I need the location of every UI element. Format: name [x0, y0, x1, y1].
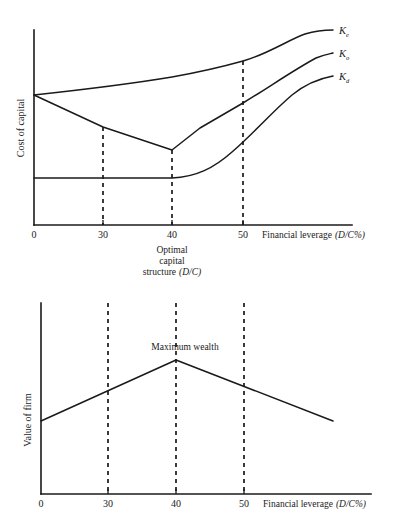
- top-x-axis-title-text: Financial leverage: [262, 230, 332, 240]
- optimal-caption-line3-text: structure: [143, 267, 176, 277]
- curve-label-ko: Ko: [338, 48, 350, 61]
- optimal-caption-line3-units: (D/C): [179, 267, 201, 278]
- optimal-caption-line2: capital: [159, 256, 185, 266]
- curve-label-ke-sub: e: [346, 31, 349, 38]
- cost-of-capital-chart: Ke Ko Kd 0 30 40 50 Financial leverage(D…: [15, 25, 365, 278]
- figure-root: Ke Ko Kd 0 30 40 50 Financial leverage(D…: [0, 0, 402, 530]
- value-of-firm-chart: Maximum wealth 0 30 40 50 Financial leve…: [22, 303, 371, 510]
- maximum-wealth-label: Maximum wealth: [151, 342, 219, 352]
- bottom-y-axis-title: Value of firm: [22, 393, 33, 447]
- top-tick-label-40: 40: [167, 229, 177, 240]
- curve-label-kd: Kd: [338, 71, 350, 84]
- bottom-tick-label-40: 40: [171, 498, 181, 509]
- bottom-tick-label-30: 30: [103, 498, 113, 509]
- bottom-x-axis-title: Financial leverage(D/C%): [263, 499, 366, 510]
- top-tick-label-0: 0: [32, 229, 37, 240]
- optimal-caption-line1: Optimal: [156, 245, 187, 255]
- optimal-caption-line3: structure(D/C): [143, 267, 201, 278]
- top-x-axis-title: Financial leverage(D/C%): [262, 230, 365, 241]
- bottom-x-axis-units: (D/C%): [336, 499, 366, 510]
- curve-value-of-firm: [41, 360, 333, 421]
- top-x-axis-units: (D/C%): [335, 230, 365, 241]
- curve-label-ke: Ke: [338, 25, 349, 38]
- curve-label-ko-sub: o: [346, 54, 350, 61]
- capital-structure-figure: Ke Ko Kd 0 30 40 50 Financial leverage(D…: [0, 0, 402, 530]
- bottom-tick-label-0: 0: [39, 498, 44, 509]
- bottom-x-axis-title-text: Financial leverage: [263, 499, 333, 509]
- top-tick-label-50: 50: [238, 229, 248, 240]
- top-tick-label-30: 30: [98, 229, 108, 240]
- bottom-tick-label-50: 50: [239, 498, 249, 509]
- curve-kd: [34, 76, 333, 178]
- curve-label-kd-sub: d: [346, 77, 350, 84]
- curve-ke: [34, 30, 333, 95]
- curve-ko: [34, 53, 333, 150]
- top-y-axis-title: Cost of capital: [15, 99, 26, 158]
